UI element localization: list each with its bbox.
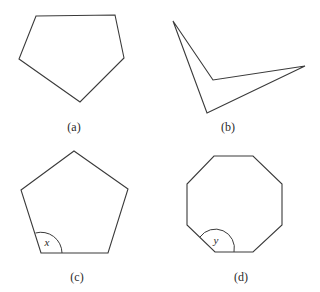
angle-label-y: y [213, 234, 219, 246]
concave-quadrilateral [173, 21, 305, 113]
figure-a: (a) [19, 15, 124, 134]
regular-octagon [187, 156, 282, 252]
caption-d: (d) [234, 270, 248, 284]
irregular-pentagon [19, 15, 124, 102]
polygon-diagram: (a) (b) x (c) y (d) [0, 0, 320, 292]
regular-pentagon [21, 151, 128, 253]
caption-a: (a) [67, 120, 80, 134]
angle-label-x: x [44, 236, 50, 248]
figure-d: y (d) [187, 156, 282, 284]
figure-c: x (c) [21, 151, 128, 284]
caption-c: (c) [70, 270, 83, 284]
figure-b: (b) [173, 21, 305, 134]
caption-b: (b) [221, 120, 235, 134]
